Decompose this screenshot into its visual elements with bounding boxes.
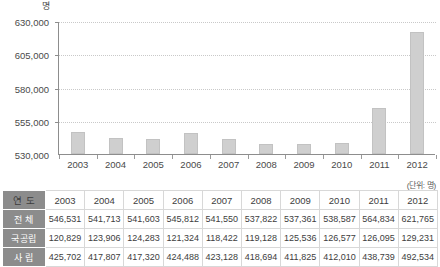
x-axis-tick-mark xyxy=(323,155,324,159)
table-cell: 126,095 xyxy=(359,229,398,248)
table-row-header: 사 립 xyxy=(3,248,46,267)
gridline xyxy=(59,55,436,56)
table-cell: 541,550 xyxy=(202,210,241,229)
table-column-header-2009: 2009 xyxy=(281,191,320,210)
y-axis-tick-label: 555,000 xyxy=(0,118,49,128)
table-row-header: 전 체 xyxy=(3,210,46,229)
x-axis-tick-mark xyxy=(210,155,211,159)
bar-2007 xyxy=(222,139,236,154)
x-axis-tick-label: 2003 xyxy=(58,160,98,170)
table-cell: 537,361 xyxy=(281,210,320,229)
table-corner-header: 연 도 xyxy=(3,191,46,210)
data-table: 연 도2003200420052006200720082009201020112… xyxy=(2,190,438,267)
table-cell: 123,906 xyxy=(85,229,124,248)
table-column-header-2011: 2011 xyxy=(359,191,398,210)
x-axis-tick-mark xyxy=(248,155,249,159)
x-axis-tick-label: 2012 xyxy=(397,160,437,170)
x-axis-tick-label: 2007 xyxy=(209,160,249,170)
table-cell: 121,324 xyxy=(163,229,202,248)
table-cell: 417,807 xyxy=(85,248,124,267)
table-column-header-2005: 2005 xyxy=(124,191,163,210)
table-unit-note: (단위: 명) xyxy=(407,179,436,190)
bar-2010 xyxy=(335,143,349,154)
table-cell: 438,739 xyxy=(359,248,398,267)
bar-chart: 명 530,000555,000580,000605,000630,000200… xyxy=(0,0,440,178)
x-axis-tick-mark xyxy=(361,155,362,159)
table-cell: 541,713 xyxy=(85,210,124,229)
table-cell: 537,822 xyxy=(241,210,280,229)
y-axis-tick-label: 580,000 xyxy=(0,85,49,95)
bar-2009 xyxy=(297,144,311,154)
x-axis-tick-mark xyxy=(172,155,173,159)
table-row: 전 체546,531541,713541,603545,812541,55053… xyxy=(3,210,438,229)
table-cell: 546,531 xyxy=(46,210,85,229)
y-axis-tick-label: 530,000 xyxy=(0,151,49,161)
table-row-header: 국공립 xyxy=(3,229,46,248)
table-row: 국공립120,829123,906124,283121,324118,42211… xyxy=(3,229,438,248)
x-axis-tick-mark xyxy=(97,155,98,159)
table-column-header-2007: 2007 xyxy=(202,191,241,210)
table-cell: 411,825 xyxy=(281,248,320,267)
gridline xyxy=(59,22,436,23)
table-cell: 417,320 xyxy=(124,248,163,267)
table-column-header-2006: 2006 xyxy=(163,191,202,210)
table-cell: 538,587 xyxy=(320,210,359,229)
bar-2005 xyxy=(146,139,160,154)
bar-2003 xyxy=(71,132,85,154)
bar-2011 xyxy=(372,108,386,154)
table-column-header-2008: 2008 xyxy=(241,191,280,210)
table-cell: 423,128 xyxy=(202,248,241,267)
table-column-header-2012: 2012 xyxy=(398,191,437,210)
table-cell: 125,536 xyxy=(281,229,320,248)
table-column-header-2003: 2003 xyxy=(46,191,85,210)
x-axis-tick-label: 2011 xyxy=(359,160,399,170)
y-axis-tick-mark xyxy=(55,55,59,56)
plot-area: 530,000555,000580,000605,000630,00020032… xyxy=(58,22,435,155)
y-axis-tick-mark xyxy=(55,22,59,23)
table-cell: 545,812 xyxy=(163,210,202,229)
table-cell: 118,422 xyxy=(202,229,241,248)
bar-2008 xyxy=(259,144,273,154)
table-column-header-2004: 2004 xyxy=(85,191,124,210)
bar-2006 xyxy=(184,133,198,154)
x-axis-tick-label: 2009 xyxy=(284,160,324,170)
table-cell: 412,010 xyxy=(320,248,359,267)
data-table-container: 연 도2003200420052006200720082009201020112… xyxy=(2,190,438,267)
table-cell: 541,603 xyxy=(124,210,163,229)
x-axis-tick-label: 2008 xyxy=(246,160,286,170)
x-axis-tick-mark xyxy=(285,155,286,159)
y-axis-tick-label: 630,000 xyxy=(0,18,49,28)
y-axis-tick-mark xyxy=(55,89,59,90)
table-cell: 126,577 xyxy=(320,229,359,248)
x-axis-tick-mark xyxy=(398,155,399,159)
table-cell: 424,488 xyxy=(163,248,202,267)
y-axis-tick-label: 605,000 xyxy=(0,51,49,61)
table-column-header-2010: 2010 xyxy=(320,191,359,210)
table-cell: 492,534 xyxy=(398,248,437,267)
bar-2012 xyxy=(410,32,424,154)
table-cell: 120,829 xyxy=(46,229,85,248)
table-cell: 564,834 xyxy=(359,210,398,229)
table-cell: 425,702 xyxy=(46,248,85,267)
table-cell: 418,694 xyxy=(241,248,280,267)
x-axis-tick-label: 2006 xyxy=(171,160,211,170)
table-cell: 124,283 xyxy=(124,229,163,248)
bar-2004 xyxy=(109,138,123,154)
y-axis-tick-mark xyxy=(55,122,59,123)
x-axis-tick-label: 2005 xyxy=(133,160,173,170)
x-axis-tick-mark xyxy=(59,155,60,159)
table-cell: 129,231 xyxy=(398,229,437,248)
x-axis-tick-mark xyxy=(134,155,135,159)
table-cell: 621,765 xyxy=(398,210,437,229)
table-header-row: 연 도2003200420052006200720082009201020112… xyxy=(3,191,438,210)
figure-container: 명 530,000555,000580,000605,000630,000200… xyxy=(0,0,440,267)
y-axis-unit-label: 명 xyxy=(42,2,50,11)
x-axis-tick-label: 2004 xyxy=(96,160,136,170)
x-axis-tick-label: 2010 xyxy=(322,160,362,170)
x-axis-tick-mark xyxy=(436,155,437,159)
table-row: 사 립425,702417,807417,320424,488423,12841… xyxy=(3,248,438,267)
gridline xyxy=(59,89,436,90)
table-cell: 119,128 xyxy=(241,229,280,248)
